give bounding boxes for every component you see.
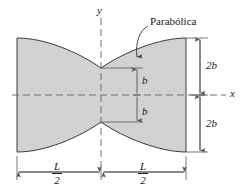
length-left-numerator: L [52,161,62,173]
length-right-numerator: L [138,161,148,173]
length-right-denominator: 2 [138,175,148,187]
b-upper-label: b [142,75,148,86]
y-axis-label: y [97,5,102,16]
length-dimension-group [17,156,186,180]
figure-canvas [0,0,241,195]
parabolic-beam-figure: Parabólica y x b b 2b 2b L 2 L 2 [0,0,241,195]
parabolica-label: Parabólica [150,16,196,27]
two-b-upper-label: 2b [206,60,217,71]
length-right-label: L 2 [138,161,148,186]
two-b-lower-label: 2b [206,118,217,129]
length-left-denominator: 2 [52,175,62,187]
length-left-label: L 2 [52,161,62,186]
x-axis-label: x [230,88,235,99]
b-lower-label: b [142,106,148,117]
